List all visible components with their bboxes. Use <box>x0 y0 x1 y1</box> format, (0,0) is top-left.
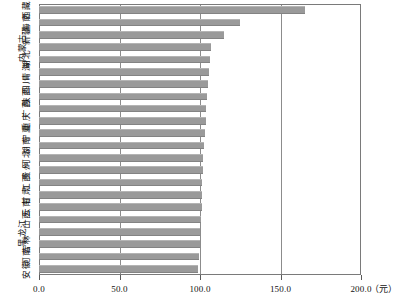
category-label-text: 安徽 <box>22 259 31 278</box>
bar-row <box>39 164 361 176</box>
bar-row <box>39 127 361 139</box>
bar <box>39 93 207 101</box>
x-tick-mark <box>120 275 121 280</box>
bar <box>39 117 206 125</box>
bar-row <box>39 103 361 115</box>
category-label: 宁夏 <box>0 127 39 139</box>
category-label: 安徽 <box>0 263 39 275</box>
category-label: 四川 <box>0 78 39 90</box>
x-tick-label: 0.0 <box>16 283 62 295</box>
category-label: 湖南 <box>0 140 39 152</box>
category-label: 陕西 <box>0 90 39 102</box>
bar <box>39 166 203 174</box>
x-tick-mark <box>200 275 201 280</box>
bar <box>39 253 199 261</box>
bar-row <box>39 41 361 53</box>
x-tick-mark <box>281 275 282 280</box>
bar <box>39 68 209 76</box>
bar-row <box>39 4 361 16</box>
x-axis-tick-labels: 0.050.0100.0150.0200.0 <box>0 283 399 299</box>
bar <box>39 154 203 162</box>
bar <box>39 56 210 64</box>
category-label: 云南 <box>0 201 39 213</box>
bar-row <box>39 176 361 188</box>
category-label: 甘肃 <box>0 189 39 201</box>
x-axis-unit-label: （元） <box>370 283 397 295</box>
category-label: 河北 <box>0 152 39 164</box>
x-tick-mark <box>361 275 362 280</box>
bar-row <box>39 66 361 78</box>
category-label: 内蒙古 <box>0 41 39 53</box>
bar-row <box>39 213 361 225</box>
bar-row <box>39 139 361 151</box>
category-label: 贵州 <box>0 164 39 176</box>
bar-row <box>39 29 361 41</box>
category-label: 黑龙江 <box>0 226 39 238</box>
bar <box>39 43 211 51</box>
category-label: 海南 <box>0 16 39 28</box>
x-tick-label: 50.0 <box>97 283 143 295</box>
bar <box>39 31 224 39</box>
bar <box>39 191 202 199</box>
category-label: 西藏 <box>0 4 39 16</box>
category-label: 重庆 <box>0 115 39 127</box>
bars-layer <box>39 4 361 275</box>
category-label: 河南 <box>0 250 39 262</box>
bar-row <box>39 238 361 250</box>
bar <box>39 265 198 273</box>
bar-row <box>39 263 361 275</box>
bar-row <box>39 115 361 127</box>
bar <box>39 203 202 211</box>
x-tick-label: 150.0 <box>258 283 304 295</box>
bar <box>39 129 205 137</box>
bar <box>39 240 200 248</box>
bar-row <box>39 189 361 201</box>
category-label: 青海 <box>0 66 39 78</box>
category-label: 广西 <box>0 103 39 115</box>
bar-chart: 西藏海南新疆内蒙古湖北青海四川陕西广西重庆宁夏湖南河北贵州江西甘肃云南山西黑龙江… <box>0 0 399 307</box>
bar-row <box>39 201 361 213</box>
bar <box>39 19 240 27</box>
bar <box>39 228 200 236</box>
bar-row <box>39 78 361 90</box>
bar-row <box>39 226 361 238</box>
bar <box>39 142 204 150</box>
bar-row <box>39 53 361 65</box>
bar <box>39 6 305 14</box>
bar-row <box>39 90 361 102</box>
x-tick-label: 100.0 <box>177 283 223 295</box>
category-label: 湖北 <box>0 53 39 65</box>
category-label: 吉林 <box>0 238 39 250</box>
bar <box>39 216 201 224</box>
bar-row <box>39 152 361 164</box>
bar-row <box>39 16 361 28</box>
category-axis-labels: 西藏海南新疆内蒙古湖北青海四川陕西广西重庆宁夏湖南河北贵州江西甘肃云南山西黑龙江… <box>0 4 39 275</box>
category-label: 江西 <box>0 176 39 188</box>
bar <box>39 105 206 113</box>
bar <box>39 179 202 187</box>
bar-row <box>39 250 361 262</box>
x-tick-mark <box>39 275 40 280</box>
bar <box>39 80 208 88</box>
